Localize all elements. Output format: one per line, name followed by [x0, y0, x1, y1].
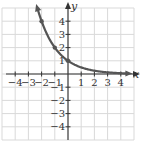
data-point [53, 45, 57, 49]
data-point [39, 19, 43, 23]
y-tick-label: 3 [59, 29, 65, 40]
y-tick-label: 2 [59, 42, 65, 53]
y-tick-label: −4 [50, 121, 65, 132]
y-tick-label: 4 [59, 16, 65, 27]
curve [35, 4, 132, 76]
exponential-graph: −4−3−2−11234−4−3−2−11234 x y [0, 0, 143, 151]
x-axis-label: x [133, 68, 140, 81]
x-tick-label: 1 [78, 77, 84, 88]
x-tick-label: 4 [118, 77, 124, 88]
data-point [66, 59, 70, 63]
axes [6, 2, 140, 140]
x-tick-label: 2 [91, 77, 97, 88]
y-axis-label: y [70, 0, 78, 13]
y-tick-label: −1 [50, 82, 65, 93]
y-tick-label: −2 [50, 95, 65, 106]
x-tick-label: 3 [104, 77, 110, 88]
y-tick-label: −3 [50, 108, 65, 119]
